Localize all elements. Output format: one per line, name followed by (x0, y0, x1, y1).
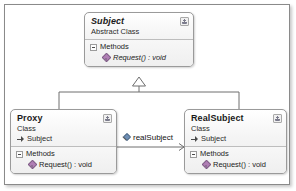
class-base-proxy[interactable]: Subject (17, 134, 111, 144)
minus-expander-icon[interactable] (90, 44, 97, 51)
member-signature: Request() : void (39, 159, 92, 170)
association-label-text: realSubject (133, 133, 173, 142)
class-header-proxy: Proxy Class Subject (11, 110, 116, 146)
field-icon (121, 133, 130, 142)
class-name-proxy: Proxy (17, 113, 111, 124)
method-icon (28, 161, 36, 169)
compartment-label: Methods (100, 42, 129, 52)
association-label-realsubject[interactable]: realSubject (121, 133, 173, 142)
collapse-class-icon[interactable] (103, 114, 112, 123)
compartment-header-methods[interactable]: Methods (190, 149, 282, 159)
member-signature: Request() : void (113, 52, 166, 63)
minus-expander-icon[interactable] (190, 151, 197, 158)
class-base-realsubject[interactable]: Subject (191, 134, 281, 144)
member-signature: Request() : void (213, 159, 266, 170)
class-box-realsubject[interactable]: RealSubject Class Subject Methods Reques… (184, 109, 287, 174)
compartment-label: Methods (26, 149, 55, 159)
inheritance-connector-group (59, 77, 239, 109)
compartment-header-methods[interactable]: Methods (16, 149, 112, 159)
base-arrow-icon (191, 135, 199, 143)
class-stereotype-proxy: Class (17, 124, 111, 134)
compartment-label: Methods (200, 149, 229, 159)
methods-compartment-proxy: Methods Request() : void (11, 147, 116, 173)
member-row[interactable]: Request() : void (190, 159, 282, 170)
compartment-header-methods[interactable]: Methods (90, 42, 189, 52)
base-class-name: Subject (201, 134, 226, 144)
class-stereotype-realsubject: Class (191, 124, 281, 134)
hollow-triangle-icon (133, 77, 146, 86)
collapse-class-icon[interactable] (273, 114, 282, 123)
base-class-name: Subject (27, 134, 52, 144)
member-row[interactable]: Request() : void (16, 159, 112, 170)
member-row[interactable]: Request() : void (90, 52, 189, 63)
class-header-subject: Subject Abstract Class (85, 13, 193, 39)
method-icon (202, 161, 210, 169)
minus-expander-icon[interactable] (16, 151, 23, 158)
base-arrow-icon (17, 135, 25, 143)
class-box-subject[interactable]: Subject Abstract Class Methods Request()… (84, 12, 194, 67)
class-diagram-canvas[interactable]: Subject Abstract Class Methods Request()… (4, 4, 290, 185)
class-header-realsubject: RealSubject Class Subject (185, 110, 286, 146)
class-stereotype-subject: Abstract Class (91, 27, 188, 37)
class-name-subject: Subject (91, 16, 188, 27)
method-icon (102, 54, 110, 62)
methods-compartment-realsubject: Methods Request() : void (185, 147, 286, 173)
methods-compartment-subject: Methods Request() : void (85, 40, 193, 66)
class-box-proxy[interactable]: Proxy Class Subject Methods Request() : … (10, 109, 117, 174)
collapse-class-icon[interactable] (180, 17, 189, 26)
class-name-realsubject: RealSubject (191, 113, 281, 124)
association-connector-group (117, 144, 184, 151)
